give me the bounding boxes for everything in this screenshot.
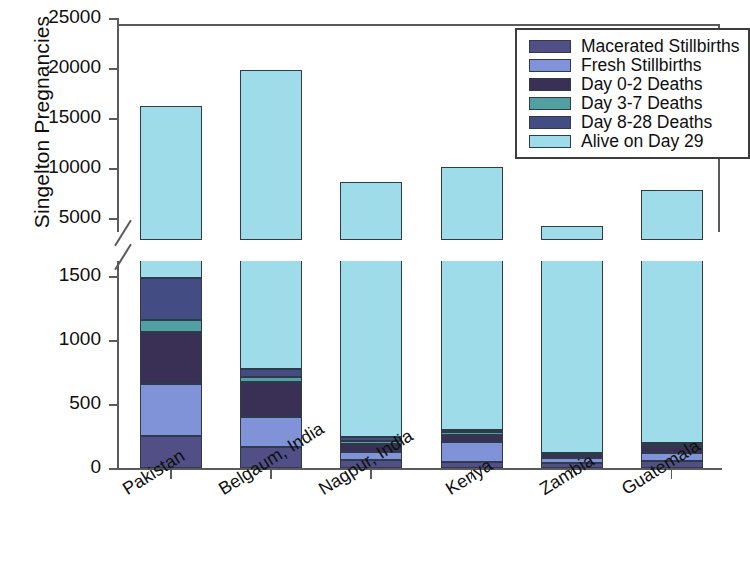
lower-y-ticklabel: 1000 <box>9 328 101 350</box>
legend-item-day-8-28-deaths: Day 8-28 Deaths <box>529 113 740 132</box>
lower-y-ticklabel: 0 <box>9 456 101 478</box>
segment-day-8-28-deaths <box>541 453 603 455</box>
segment-day-8-28-deaths <box>441 430 503 432</box>
legend-item-macerated-stillbirths: Macerated Stillbirths <box>529 37 740 56</box>
lower-y-ticklabel: 500 <box>9 392 101 414</box>
segment-alive-on-day-29 <box>240 261 302 369</box>
lower-y-tick <box>109 468 117 470</box>
segment-fresh-stillbirths <box>441 442 503 461</box>
segment-day-0-2-deaths <box>240 382 302 416</box>
segment-day-3-7-deaths <box>441 432 503 434</box>
legend-label-macerated-stillbirths: Macerated Stillbirths <box>581 37 740 56</box>
legend-swatch-fresh-stillbirths <box>529 59 571 72</box>
segment-alive-on-day-29 <box>641 261 703 443</box>
segment-alive-on-day-29 <box>340 261 402 437</box>
bar-zambia <box>541 261 603 468</box>
legend-label-day-3-7-deaths: Day 3-7 Deaths <box>581 94 703 113</box>
legend-swatch-alive-on-day-29 <box>529 135 571 148</box>
lower-y-ticklabel: 1500 <box>9 264 101 286</box>
lower-y-axis-line <box>117 261 119 470</box>
legend-label-day-0-2-deaths: Day 0-2 Deaths <box>581 75 703 94</box>
lower-y-tick <box>109 340 117 342</box>
segment-day-0-2-deaths <box>140 332 202 383</box>
bar-pakistan <box>140 261 202 468</box>
legend-item-day-3-7-deaths: Day 3-7 Deaths <box>529 94 740 113</box>
legend-swatch-day-8-28-deaths <box>529 116 571 129</box>
segment-alive-on-day-29 <box>541 261 603 453</box>
legend-swatch-day-3-7-deaths <box>529 97 571 110</box>
legend-label-fresh-stillbirths: Fresh Stillbirths <box>581 56 702 75</box>
segment-day-3-7-deaths <box>140 320 202 332</box>
segment-alive-on-day-29 <box>140 261 202 278</box>
legend-item-fresh-stillbirths: Fresh Stillbirths <box>529 56 740 75</box>
legend-item-day-0-2-deaths: Day 0-2 Deaths <box>529 75 740 94</box>
legend-swatch-day-0-2-deaths <box>529 78 571 91</box>
segment-fresh-stillbirths <box>140 384 202 437</box>
segment-alive-on-day-29 <box>441 261 503 430</box>
chart-legend: Macerated Stillbirths Fresh Stillbirths … <box>515 28 750 159</box>
lower-y-tick <box>109 276 117 278</box>
x-axis-line <box>117 468 722 470</box>
legend-swatch-macerated-stillbirths <box>529 40 571 53</box>
legend-item-alive-on-day-29: Alive on Day 29 <box>529 132 740 151</box>
lower-y-tick <box>109 404 117 406</box>
legend-label-day-8-28-deaths: Day 8-28 Deaths <box>581 113 712 132</box>
segment-day-3-7-deaths <box>240 377 302 382</box>
legend-label-alive-on-day-29: Alive on Day 29 <box>581 132 704 151</box>
segment-day-8-28-deaths <box>140 278 202 320</box>
bar-kenya <box>441 261 503 468</box>
segment-day-0-2-deaths <box>441 435 503 443</box>
segment-day-8-28-deaths <box>240 369 302 377</box>
